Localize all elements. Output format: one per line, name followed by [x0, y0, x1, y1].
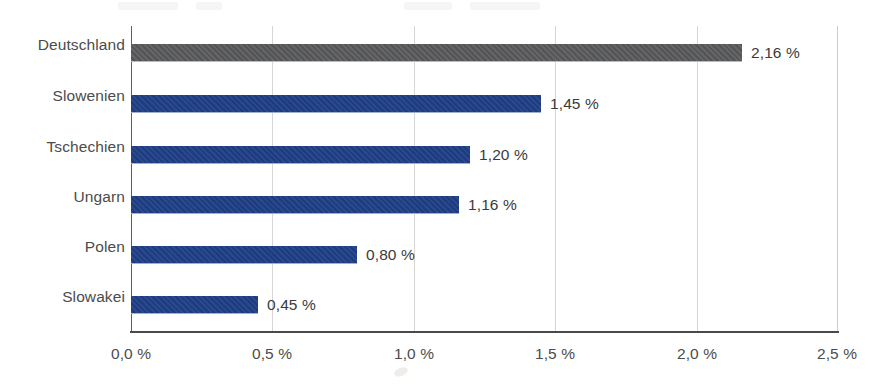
category-label-polen: Polen: [5, 238, 125, 256]
bar-value-polen: 0,80 %: [366, 246, 415, 264]
bar-tschechien[interactable]: [131, 146, 470, 164]
x-tick-label-4: 2,0 %: [677, 345, 717, 363]
bar-value-deutschland: 2,16 %: [751, 44, 800, 62]
bar-row-ungarn[interactable]: 1,16 %: [131, 196, 838, 214]
bar-row-slowenien[interactable]: 1,45 %: [131, 95, 838, 113]
bar-value-tschechien: 1,20 %: [479, 146, 528, 164]
bar-row-deutschland[interactable]: 2,16 %: [131, 44, 838, 62]
plot-area: 2,16 % 1,45 % 1,20 % 1,16 % 0,80 % 0,45 …: [131, 26, 838, 332]
gridline-4: [697, 26, 698, 332]
gridline-1: [272, 26, 273, 332]
bar-slowakei[interactable]: [131, 296, 258, 314]
bar-row-slowakei[interactable]: 0,45 %: [131, 296, 838, 314]
gridline-5: [837, 26, 838, 332]
x-tick-label-1: 0,5 %: [252, 345, 292, 363]
bar-row-polen[interactable]: 0,80 %: [131, 246, 838, 264]
category-label-tschechien: Tschechien: [5, 138, 125, 156]
category-label-deutschland: Deutschland: [5, 36, 125, 54]
x-axis-line: [130, 331, 839, 333]
x-tick-label-0: 0,0 %: [111, 345, 151, 363]
bar-slowenien[interactable]: [131, 95, 541, 113]
x-tick-label-2: 1,0 %: [394, 345, 434, 363]
gridline-0: [131, 26, 132, 332]
x-tick-label-3: 1,5 %: [535, 345, 575, 363]
cropped-title-remnant: [0, 0, 875, 14]
bar-chart: Deutschland Slowenien Tschechien Ungarn …: [0, 0, 875, 390]
x-tick-label-5: 2,5 %: [817, 345, 857, 363]
category-label-slowenien: Slowenien: [5, 87, 125, 105]
scan-smudge: [393, 366, 409, 378]
bar-polen[interactable]: [131, 246, 357, 264]
gridline-3: [555, 26, 556, 332]
bar-deutschland[interactable]: [131, 44, 742, 62]
category-label-ungarn: Ungarn: [5, 188, 125, 206]
bar-value-slowakei: 0,45 %: [267, 296, 316, 314]
bar-row-tschechien[interactable]: 1,20 %: [131, 146, 838, 164]
category-label-slowakei: Slowakei: [5, 288, 125, 306]
bar-ungarn[interactable]: [131, 196, 459, 214]
bar-value-slowenien: 1,45 %: [550, 95, 599, 113]
gridline-2: [414, 26, 415, 332]
category-axis: Deutschland Slowenien Tschechien Ungarn …: [0, 26, 125, 332]
bar-value-ungarn: 1,16 %: [468, 196, 517, 214]
